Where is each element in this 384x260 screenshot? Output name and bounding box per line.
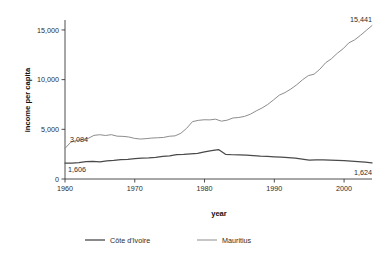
- x-axis-title: year: [211, 209, 227, 218]
- y-tick-label: 0: [55, 175, 59, 184]
- y-axis-ticks: 05,00010,00015,000: [37, 26, 65, 184]
- chart-canvas: 05,00010,00015,000 19601970198019902000 …: [0, 0, 384, 260]
- y-tick-label: 5,000: [41, 125, 59, 134]
- x-tick-label: 1990: [266, 184, 282, 193]
- x-tick-label: 1970: [127, 184, 143, 193]
- endpoint-label: 1,606: [68, 165, 86, 174]
- chart-legend: Côte d'IvoireMauritius: [85, 236, 252, 245]
- x-tick-label: 1980: [197, 184, 213, 193]
- y-tick-label: 10,000: [37, 75, 59, 84]
- x-tick-label: 1960: [57, 184, 73, 193]
- series-line-mauritius: [65, 26, 372, 149]
- legend-label-mauritius: Mauritius: [222, 236, 252, 245]
- x-axis-ticks: 19601970198019902000: [57, 179, 352, 193]
- legend-label-cote-divoire: Côte d'Ivoire: [110, 236, 150, 245]
- income-per-capita-line-chart: 05,00010,00015,000 19601970198019902000 …: [0, 0, 384, 260]
- endpoint-value-labels: 3,0841,60615,4411,624: [68, 15, 372, 177]
- x-tick-label: 2000: [336, 184, 352, 193]
- y-axis-title: income per capita: [23, 67, 32, 132]
- endpoint-label: 1,624: [354, 168, 372, 177]
- endpoint-label: 3,084: [70, 135, 88, 144]
- series-line-cote-divoire: [65, 150, 372, 163]
- endpoint-label: 15,441: [350, 15, 372, 24]
- y-tick-label: 15,000: [37, 26, 59, 35]
